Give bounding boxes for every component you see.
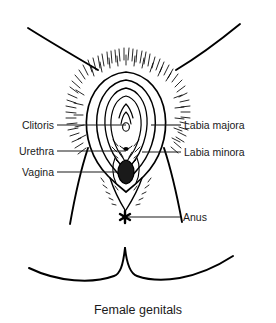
left-inner-thigh (70, 148, 88, 224)
label-vagina[interactable]: Vagina (22, 166, 54, 178)
figure-caption: Female genitals (94, 303, 182, 317)
label-labia-minora[interactable]: Labia minora (184, 146, 245, 158)
label-clitoris[interactable]: Clitoris (22, 119, 54, 131)
right-groin-line (176, 24, 240, 70)
figure-container: Clitoris Urethra Vagina Labia majora Lab… (0, 0, 276, 323)
clitoris-mark (119, 104, 133, 131)
female-genitals-diagram: Clitoris Urethra Vagina Labia majora Lab… (0, 0, 276, 323)
buttock-curves (29, 248, 233, 281)
label-labia-majora[interactable]: Labia majora (184, 119, 245, 131)
pubic-hair-region (66, 48, 190, 154)
label-urethra[interactable]: Urethra (19, 145, 54, 157)
vaginal-opening (113, 158, 139, 184)
urethral-opening (120, 146, 132, 151)
left-buttock-curve (29, 248, 125, 281)
left-groin-line (28, 28, 98, 70)
right-buttock-curve (125, 248, 233, 280)
right-inner-thigh (164, 148, 182, 222)
label-anus[interactable]: Anus (183, 211, 207, 223)
